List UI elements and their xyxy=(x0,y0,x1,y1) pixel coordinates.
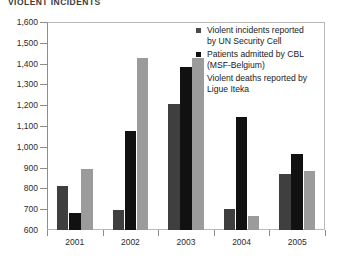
bar-2003-series-2 xyxy=(180,67,192,230)
y-axis-tick-label: 900 xyxy=(24,163,38,173)
legend-item-label: Patients admitted by CBL xyxy=(207,49,332,60)
y-axis-tick xyxy=(40,43,47,44)
y-axis-tick xyxy=(40,84,47,85)
x-axis-tick xyxy=(103,230,104,236)
y-axis-tick-label: 700 xyxy=(24,204,38,214)
legend-item-label: Violent deaths reported by xyxy=(207,73,332,84)
legend-item: Violent incidents reported by UN Securit… xyxy=(196,25,332,46)
legend-swatch-icon xyxy=(196,76,201,81)
bar-2002-series-3 xyxy=(137,58,149,230)
bar-2005-series-3 xyxy=(304,171,316,230)
y-axis-tick-label: 1,200 xyxy=(17,100,38,110)
y-axis-tick xyxy=(40,188,47,189)
y-axis-tick xyxy=(40,22,47,23)
y-axis-tick xyxy=(40,147,47,148)
y-axis-tick xyxy=(40,126,47,127)
legend-swatch-icon xyxy=(196,28,201,33)
chart-legend: Violent incidents reported by UN Securit… xyxy=(196,25,332,98)
bar-2005-series-1 xyxy=(279,174,291,230)
legend-item-label-cont: by UN Security Cell xyxy=(207,36,332,47)
legend-item-label-cont: Ligue Iteka xyxy=(207,84,332,95)
y-axis-tick-label: 1,500 xyxy=(17,38,38,48)
bar-2005-series-2 xyxy=(291,154,303,230)
y-axis-tick xyxy=(40,168,47,169)
x-axis-tick-label: 2003 xyxy=(177,237,196,247)
x-axis-tick xyxy=(269,230,270,236)
bar-2002-series-1 xyxy=(113,210,125,230)
y-axis-tick xyxy=(40,64,47,65)
y-axis-tick-label: 1,100 xyxy=(17,121,38,131)
y-axis-tick-label: 800 xyxy=(24,183,38,193)
x-axis-tick xyxy=(325,230,326,236)
bar-2003-series-1 xyxy=(168,104,180,230)
x-axis-tick xyxy=(214,230,215,236)
x-axis-tick-label: 2001 xyxy=(65,237,84,247)
legend-swatch-icon xyxy=(196,52,201,57)
bar-2001-series-3 xyxy=(81,169,93,230)
legend-item: Patients admitted by CBL (MSF-Belgium) xyxy=(196,49,332,70)
legend-item: Violent deaths reported by Ligue Iteka xyxy=(196,73,332,94)
y-axis-tick xyxy=(40,209,47,210)
bar-2004-series-3 xyxy=(248,216,260,230)
bar-2004-series-1 xyxy=(224,209,236,230)
y-axis-tick-label: 1,000 xyxy=(17,142,38,152)
bar-2001-series-1 xyxy=(57,186,69,230)
y-axis-tick-label: 1,300 xyxy=(17,79,38,89)
x-axis-tick xyxy=(158,230,159,236)
legend-item-label: Violent incidents reported xyxy=(207,25,332,36)
x-axis-tick-label: 2004 xyxy=(232,237,251,247)
chart-page: VIOLENT INCIDENTS 6007008009001,0001,100… xyxy=(0,0,343,260)
y-axis: 6007008009001,0001,1001,2001,3001,4001,5… xyxy=(0,0,47,260)
x-axis-tick xyxy=(47,230,48,236)
x-axis-tick-label: 2002 xyxy=(121,237,140,247)
y-axis-tick xyxy=(40,105,47,106)
bar-2002-series-2 xyxy=(125,131,137,230)
bar-2004-series-2 xyxy=(236,117,248,230)
y-axis-tick-label: 1,600 xyxy=(17,17,38,27)
y-axis-tick-label: 1,400 xyxy=(17,59,38,69)
x-axis-tick-label: 2005 xyxy=(288,237,307,247)
y-axis-tick-label: 600 xyxy=(24,225,38,235)
legend-item-label-cont: (MSF-Belgium) xyxy=(207,60,332,71)
bar-2001-series-2 xyxy=(69,213,81,230)
